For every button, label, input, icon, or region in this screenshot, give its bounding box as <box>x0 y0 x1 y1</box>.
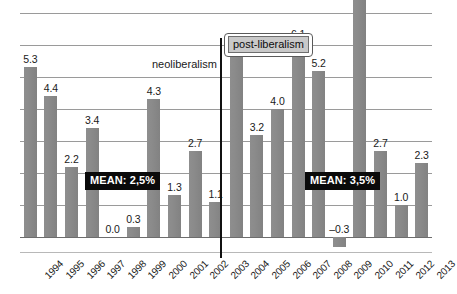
bar-value-label-2002: 2.7 <box>179 137 211 149</box>
bar-2005[interactable] <box>250 135 263 237</box>
bar-value-label-2011: 2.7 <box>365 137 397 149</box>
bar-value-label-1999: 0.3 <box>117 213 149 225</box>
x-axis-baseline <box>20 237 432 238</box>
bar-value-label-1996: 2.2 <box>56 153 88 165</box>
bar-value-label-2003: 1.1 <box>200 188 232 200</box>
bar-value-label-2001: 1.3 <box>159 181 191 193</box>
x-tick-2006: 2006 <box>290 258 313 281</box>
x-tick-1994: 1994 <box>43 258 66 281</box>
annotation-post-liberalism-box: post-liberalism <box>224 33 313 57</box>
bar-value-label-1997: 3.4 <box>76 114 108 126</box>
mean-badge-neoliberalism: MEAN: 2,5% <box>85 172 160 190</box>
bar-2010[interactable] <box>353 0 366 237</box>
mean-badge-post-liberalism: MEAN: 3,5% <box>305 172 380 190</box>
x-tick-2002: 2002 <box>207 258 230 281</box>
bar-2012[interactable] <box>395 205 408 237</box>
annotation-neoliberalism: neoliberalism <box>152 58 217 70</box>
x-tick-1998: 1998 <box>125 258 148 281</box>
bar-2006[interactable] <box>271 109 284 237</box>
annotation-post-liberalism-label: post-liberalism <box>228 36 309 53</box>
gridline <box>20 77 432 78</box>
bar-value-label-2008: 5.2 <box>303 57 335 69</box>
x-tick-2012: 2012 <box>413 258 436 281</box>
bar-value-label-2009: –0.3 <box>323 223 355 235</box>
bar-2007[interactable] <box>292 42 305 237</box>
gridline <box>20 205 432 206</box>
bar-1999[interactable] <box>127 227 140 237</box>
x-tick-1996: 1996 <box>84 258 107 281</box>
bar-2008[interactable] <box>312 71 325 237</box>
x-tick-1999: 1999 <box>146 258 169 281</box>
bar-value-label-1994: 5.3 <box>14 53 46 65</box>
bar-value-label-1995: 4.4 <box>35 82 67 94</box>
bar-value-label-2006: 4.0 <box>262 95 294 107</box>
bar-value-label-2005: 3.2 <box>241 121 273 133</box>
bar-2004[interactable] <box>230 55 243 237</box>
x-tick-2003: 2003 <box>228 258 251 281</box>
bar-value-label-2013: 2.3 <box>406 149 438 161</box>
bar-value-label-2000: 4.3 <box>138 85 170 97</box>
x-tick-1997: 1997 <box>104 258 127 281</box>
x-tick-2011: 2011 <box>393 258 415 280</box>
bar-2009[interactable] <box>333 237 346 247</box>
bar-1996[interactable] <box>65 167 78 237</box>
x-tick-2004: 2004 <box>249 258 272 281</box>
gridline <box>20 109 432 110</box>
x-tick-2005: 2005 <box>269 258 292 281</box>
bar-2000[interactable] <box>147 99 160 237</box>
x-tick-2001: 2001 <box>187 258 210 281</box>
bar-2001[interactable] <box>168 195 181 237</box>
bar-value-label-2012: 1.0 <box>385 191 417 203</box>
x-tick-1995: 1995 <box>63 258 86 281</box>
x-tick-2008: 2008 <box>331 258 354 281</box>
x-tick-2009: 2009 <box>352 258 375 281</box>
x-tick-2013: 2013 <box>434 258 457 281</box>
x-tick-2007: 2007 <box>310 258 333 281</box>
bar-2013[interactable] <box>415 163 428 237</box>
gridline <box>20 252 432 253</box>
x-tick-2000: 2000 <box>166 258 189 281</box>
bar-1995[interactable] <box>44 96 57 237</box>
era-divider-line <box>220 38 222 258</box>
gridline <box>20 13 432 14</box>
x-tick-2010: 2010 <box>372 258 395 281</box>
